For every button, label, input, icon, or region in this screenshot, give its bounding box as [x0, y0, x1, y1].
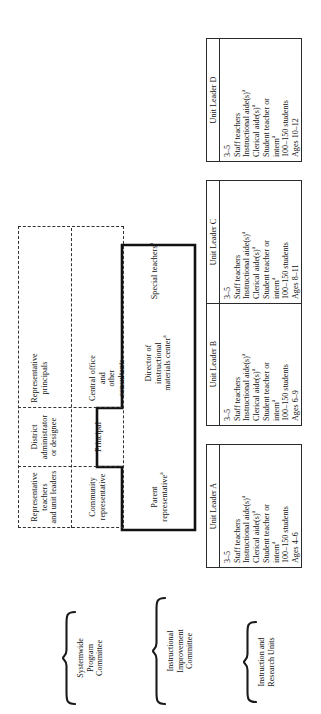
unit-a-line-5: intern: [272, 544, 281, 563]
unit-b-title: Unit Leader B: [207, 303, 220, 425]
unit-b-details: 3–5 Staff teachers Instructional aide(s)…: [220, 303, 301, 425]
systemwide-committee-divider: [71, 228, 72, 528]
caption-instruction-and-research-units: Instruction and Research Units: [257, 620, 276, 704]
unit-c-line-4: Student teacher or: [262, 240, 271, 299]
unit-c-note-5: a: [270, 278, 276, 280]
unit-a-line-1: Staff teachers: [233, 519, 242, 563]
member-parent-representative: Parent representativea: [150, 466, 169, 528]
unit-d-line-2: Instructional aide(s): [242, 92, 251, 157]
unit-a-note-5: a: [270, 542, 276, 544]
unit-d-line-1: Staff teachers: [233, 113, 242, 157]
unit-a-line-2: Instructional aide(s): [242, 498, 251, 563]
member-district-administrator: District administrator or designee: [30, 409, 59, 465]
unit-b-line-2: Instructional aide(s): [242, 356, 251, 421]
caption-instructional-improvement-committee: Instructional Improvement Committee: [166, 596, 195, 706]
member-director-instructional-materials-label: Director of instructional materials cent…: [144, 338, 172, 391]
member-special-teachers-label: Special teachers: [150, 245, 159, 299]
unit-a-line-4: Student teacher or: [262, 504, 271, 563]
unit-b-line-4: Student teacher or: [262, 362, 271, 421]
unit-b-line-0: 3–5: [223, 409, 232, 421]
unit-d-details: 3–5 Staff teachers Instructional aide(s)…: [220, 39, 301, 161]
member-community-representative: Community representative: [88, 468, 107, 526]
organization-chart: Systemwide Program Committee Instruction…: [0, 0, 321, 714]
caption-systemwide-program-committee: Systemwide Program Committee: [76, 610, 105, 706]
unit-a-details: 3–5 Staff teachers Instructional aide(s)…: [220, 445, 301, 567]
unit-b-line-1: Staff teachers: [233, 377, 242, 421]
unit-d-line-3: Clerical aide(s): [252, 107, 261, 157]
footnote-marker-special-teachers: a: [148, 243, 154, 246]
unit-d-line-6: 100–150 students: [281, 100, 290, 157]
unit-c-note-3: a: [250, 247, 256, 249]
unit-c-details: 3–5 Staff teachers Instructional aide(s)…: [220, 181, 301, 303]
unit-b-line-6: 100–150 students: [281, 364, 290, 421]
unit-c-line-2: Instructional aide(s): [242, 234, 251, 299]
footnote-marker-parent-representative: a: [158, 472, 164, 475]
unit-box-c[interactable]: Unit Leader C 3–5 Staff teachers Instruc…: [206, 180, 302, 304]
unit-b-note-3: a: [250, 369, 256, 371]
member-special-teachers: Special teachersa: [150, 236, 160, 306]
unit-c-line-0: 3–5: [223, 287, 232, 299]
systemwide-divider-right: [18, 407, 122, 408]
unit-a-line-3: Clerical aide(s): [252, 513, 261, 563]
unit-c-line-5: intern: [272, 280, 281, 299]
unit-d-line-5: intern: [272, 138, 281, 157]
member-principal: Principal: [94, 409, 104, 465]
unit-a-note-2: a: [241, 496, 247, 498]
systemwide-divider-left: [18, 466, 122, 467]
member-representative-teachers: Representative teachers and unit leaders: [30, 468, 59, 526]
unit-a-note-3: a: [250, 511, 256, 513]
member-representative-principals: Representative principals: [30, 350, 49, 406]
unit-c-line-7: Ages 8–11: [291, 264, 300, 299]
unit-c-line-1: Staff teachers: [233, 255, 242, 299]
unit-d-title: Unit Leader D: [207, 39, 220, 161]
unit-d-line-0: 3–5: [223, 145, 232, 157]
unit-a-title: Unit Leader A: [207, 445, 220, 567]
unit-a-line-0: 3–5: [223, 551, 232, 563]
unit-c-note-2: a: [241, 232, 247, 234]
unit-a-line-7: Ages 4–6: [291, 532, 300, 563]
unit-a-line-6: 100–150 students: [281, 506, 290, 563]
rotated-figure-frame: Systemwide Program Committee Instruction…: [0, 0, 321, 714]
member-director-instructional-materials: Director of instructional materials cent…: [144, 324, 173, 402]
unit-box-d[interactable]: Unit Leader D 3–5 Staff teachers Instruc…: [206, 38, 302, 162]
unit-d-line-7: Ages 10–12: [291, 118, 300, 157]
unit-box-a[interactable]: Unit Leader A 3–5 Staff teachers Instruc…: [206, 444, 302, 568]
unit-c-title: Unit Leader C: [207, 181, 220, 303]
unit-box-b[interactable]: Unit Leader B 3–5 Staff teachers Instruc…: [206, 302, 302, 426]
footnote-marker-director-imc: a: [161, 335, 167, 338]
unit-b-note-2: a: [241, 354, 247, 356]
member-parent-representative-label: Parent representative: [150, 475, 169, 522]
unit-b-line-5: intern: [272, 402, 281, 421]
unit-c-line-6: 100–150 students: [281, 242, 290, 299]
unit-b-line-3: Clerical aide(s): [252, 371, 261, 421]
unit-d-note-5: a: [270, 136, 276, 138]
unit-d-note-3: a: [250, 105, 256, 107]
unit-d-note-2: a: [241, 90, 247, 92]
unit-d-line-4: Student teacher or: [262, 98, 271, 157]
unit-b-note-5: a: [270, 400, 276, 402]
unit-c-line-3: Clerical aide(s): [252, 249, 261, 299]
unit-b-line-7: Ages 6–9: [291, 390, 300, 421]
member-central-office-consultants: Central office and other consultants: [88, 350, 126, 406]
